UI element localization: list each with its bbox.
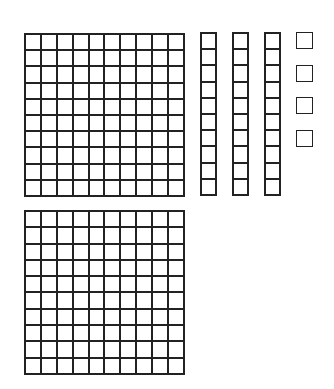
unit-cell bbox=[120, 50, 136, 66]
unit-cell bbox=[152, 260, 168, 276]
unit-cell bbox=[73, 147, 89, 163]
unit-cell bbox=[104, 147, 120, 163]
unit-cell bbox=[136, 83, 152, 99]
unit-cell bbox=[120, 115, 136, 131]
unit-cell bbox=[57, 50, 73, 66]
unit-cell bbox=[73, 34, 89, 50]
unit-cell bbox=[25, 147, 41, 163]
tens-rod-3 bbox=[264, 32, 281, 196]
unit-cell bbox=[120, 147, 136, 163]
unit-cell bbox=[233, 130, 248, 146]
unit-cell bbox=[41, 276, 57, 292]
unit-cell bbox=[25, 309, 41, 325]
unit-cell bbox=[152, 66, 168, 82]
unit-cell bbox=[25, 358, 41, 374]
unit-cell bbox=[41, 180, 57, 196]
unit-cell bbox=[57, 341, 73, 357]
unit-cell bbox=[41, 115, 57, 131]
unit-cell bbox=[104, 50, 120, 66]
unit-cell bbox=[120, 325, 136, 341]
unit-cell bbox=[89, 83, 105, 99]
unit-cell bbox=[104, 164, 120, 180]
unit-cell bbox=[41, 50, 57, 66]
unit-cell bbox=[152, 147, 168, 163]
unit-cell bbox=[41, 131, 57, 147]
unit-cell bbox=[89, 227, 105, 243]
unit-cell bbox=[120, 131, 136, 147]
unit-cell bbox=[233, 163, 248, 179]
unit-cell bbox=[57, 325, 73, 341]
unit-cell bbox=[120, 227, 136, 243]
unit-cell bbox=[136, 325, 152, 341]
unit-cell bbox=[73, 244, 89, 260]
unit-cell bbox=[57, 244, 73, 260]
unit-cell bbox=[168, 164, 184, 180]
unit-cell bbox=[41, 260, 57, 276]
unit-cell bbox=[265, 65, 280, 81]
unit-cell bbox=[89, 244, 105, 260]
unit-cell bbox=[233, 82, 248, 98]
hundreds-flat-1 bbox=[24, 33, 185, 197]
unit-cell bbox=[104, 227, 120, 243]
unit-cell bbox=[233, 98, 248, 114]
unit-cell bbox=[73, 164, 89, 180]
unit-cell bbox=[201, 114, 216, 130]
unit-cell bbox=[41, 99, 57, 115]
unit-cell bbox=[57, 260, 73, 276]
unit-cell bbox=[201, 82, 216, 98]
unit-cell bbox=[168, 227, 184, 243]
unit-cell bbox=[265, 114, 280, 130]
unit-cell bbox=[152, 115, 168, 131]
unit-cell bbox=[25, 164, 41, 180]
unit-cell bbox=[89, 34, 105, 50]
unit-cell bbox=[57, 147, 73, 163]
unit-cell bbox=[57, 164, 73, 180]
unit-cell bbox=[168, 341, 184, 357]
unit-cell bbox=[120, 341, 136, 357]
unit-cell bbox=[136, 115, 152, 131]
unit-cell bbox=[120, 309, 136, 325]
unit-cell bbox=[41, 292, 57, 308]
unit-cell bbox=[25, 211, 41, 227]
unit-cell bbox=[136, 309, 152, 325]
unit-cell bbox=[89, 115, 105, 131]
ones-unit-4 bbox=[296, 130, 313, 147]
unit-cell bbox=[120, 358, 136, 374]
unit-cell bbox=[57, 99, 73, 115]
unit-cell bbox=[89, 260, 105, 276]
unit-cell bbox=[89, 309, 105, 325]
unit-cell bbox=[25, 83, 41, 99]
unit-cell bbox=[136, 164, 152, 180]
unit-cell bbox=[57, 358, 73, 374]
unit-cell bbox=[168, 66, 184, 82]
unit-cell bbox=[104, 34, 120, 50]
unit-cell bbox=[104, 115, 120, 131]
unit-cell bbox=[152, 50, 168, 66]
unit-cell bbox=[233, 65, 248, 81]
unit-cell bbox=[41, 227, 57, 243]
unit-cell bbox=[168, 211, 184, 227]
unit-cell bbox=[104, 260, 120, 276]
unit-cell bbox=[120, 244, 136, 260]
unit-cell bbox=[89, 66, 105, 82]
unit-cell bbox=[136, 358, 152, 374]
unit-cell bbox=[120, 180, 136, 196]
unit-cell bbox=[120, 276, 136, 292]
unit-cell bbox=[136, 131, 152, 147]
unit-cell bbox=[152, 164, 168, 180]
ones-unit-1 bbox=[296, 32, 313, 49]
unit-cell bbox=[25, 292, 41, 308]
unit-cell bbox=[89, 164, 105, 180]
unit-cell bbox=[233, 179, 248, 195]
unit-cell bbox=[120, 292, 136, 308]
tens-rod-1 bbox=[200, 32, 217, 196]
unit-cell bbox=[152, 341, 168, 357]
unit-cell bbox=[57, 66, 73, 82]
unit-cell bbox=[168, 260, 184, 276]
unit-cell bbox=[152, 180, 168, 196]
unit-cell bbox=[41, 211, 57, 227]
unit-cell bbox=[265, 146, 280, 162]
unit-cell bbox=[265, 82, 280, 98]
hundreds-flat-2 bbox=[24, 210, 185, 375]
unit-cell bbox=[104, 99, 120, 115]
